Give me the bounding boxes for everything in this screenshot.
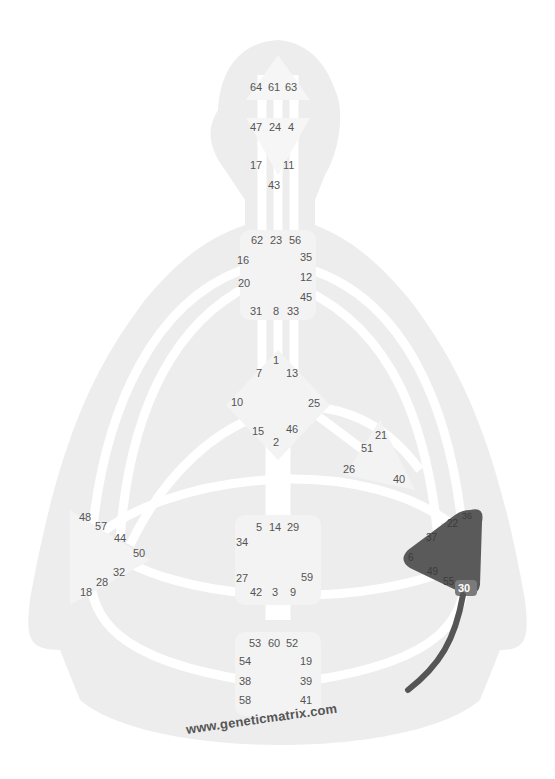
gate-45: 45: [300, 292, 312, 303]
gate-58: 58: [239, 695, 251, 706]
gate-1: 1: [273, 355, 279, 366]
gate-34: 34: [236, 537, 248, 548]
gate-51: 51: [361, 443, 373, 454]
gate-31: 31: [250, 306, 262, 317]
gate-46: 46: [286, 424, 298, 435]
gate-18: 18: [80, 587, 92, 598]
gate-40: 40: [393, 474, 405, 485]
bodygraph-svg: [0, 0, 555, 779]
gate-59: 59: [301, 572, 313, 583]
gate-29: 29: [287, 522, 299, 533]
gate-21: 21: [375, 430, 387, 441]
gate-44: 44: [114, 533, 126, 544]
gate-3: 3: [272, 587, 278, 598]
gate-28: 28: [96, 577, 108, 588]
gate-11: 11: [283, 160, 294, 171]
gate-20: 20: [238, 278, 250, 289]
gate-17: 17: [250, 160, 262, 171]
gate-63: 63: [285, 82, 297, 93]
bodygraph-chart: 64 61 63 47 24 4 17 11 43 62 23 56 16 35…: [0, 0, 555, 779]
gate-57: 57: [95, 521, 107, 532]
gate-14: 14: [269, 522, 281, 533]
gate-32: 32: [113, 567, 125, 578]
gate-55: 55: [443, 577, 454, 587]
gate-49: 49: [427, 567, 438, 577]
gate-62: 62: [251, 235, 263, 246]
gate-56: 56: [289, 235, 301, 246]
gate-36: 36: [462, 512, 472, 521]
gate-54: 54: [239, 656, 251, 667]
gate-37: 37: [426, 533, 437, 543]
gate-6: 6: [408, 553, 414, 563]
gate-42: 42: [250, 587, 262, 598]
gate-50: 50: [133, 548, 145, 559]
gate-26: 26: [343, 464, 355, 475]
gate-30: 30: [458, 583, 470, 594]
gate-23: 23: [270, 235, 282, 246]
gate-24: 24: [269, 122, 281, 133]
gate-33: 33: [287, 306, 299, 317]
gate-9: 9: [290, 587, 296, 598]
gate-12: 12: [300, 272, 312, 283]
gate-22: 22: [447, 519, 458, 529]
gate-4: 4: [288, 122, 294, 133]
gate-25: 25: [308, 398, 320, 409]
gate-64: 64: [250, 82, 262, 93]
gate-27: 27: [236, 573, 248, 584]
gate-7: 7: [256, 368, 262, 379]
gate-47: 47: [250, 122, 262, 133]
gate-43: 43: [268, 180, 280, 191]
gate-19: 19: [300, 656, 312, 667]
gate-53: 53: [249, 638, 261, 649]
gate-15: 15: [252, 426, 264, 437]
gate-10: 10: [231, 397, 243, 408]
gate-16: 16: [237, 255, 249, 266]
gate-5: 5: [256, 522, 262, 533]
gate-60: 60: [268, 638, 280, 649]
gate-48: 48: [79, 512, 91, 523]
gate-35: 35: [300, 252, 312, 263]
gate-8: 8: [273, 306, 279, 317]
gate-52: 52: [286, 638, 298, 649]
gate-2: 2: [273, 437, 279, 448]
gate-61: 61: [268, 82, 280, 93]
gate-38: 38: [239, 676, 251, 687]
gate-39: 39: [300, 676, 312, 687]
gate-13: 13: [286, 368, 298, 379]
